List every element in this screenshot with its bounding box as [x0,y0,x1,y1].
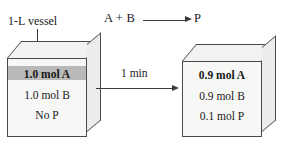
transition-arrow-icon [172,85,179,91]
vessel-initial-side-face [87,32,101,132]
vessel-callout-label: 1-L vessel [8,15,57,27]
vessel-final-contents: 0.9 mol A 0.9 mol B 0.1 mol P [182,70,262,123]
vessel-initial-contents: 1.0 mol A 1.0 mol B No P [7,69,87,122]
vessel-final-line-1: 0.9 mol A [182,70,262,82]
vessel-final-side-face [262,35,276,132]
vessel-initial-line-2: 1.0 mol B [7,90,87,102]
reaction-arrow [143,20,187,21]
reaction-reactants: A + B [104,12,135,25]
reaction-arrow-icon [185,16,192,22]
transition-label: 1 min [121,68,148,80]
vessel-initial-line-3: No P [7,110,87,122]
vessel-final-line-2: 0.9 mol B [182,91,262,103]
transition-arrow [96,88,174,89]
vessel-final-line-3: 0.1 mol P [182,111,262,123]
reaction-product: P [194,12,201,25]
diagram-canvas: A + B P 1-L vessel 1.0 mol A 1.0 mol B N… [0,0,284,150]
vessel-initial-line-1: 1.0 mol A [7,69,87,81]
